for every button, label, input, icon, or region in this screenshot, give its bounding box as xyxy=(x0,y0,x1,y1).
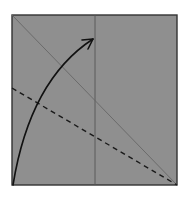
origami-fold-diagram xyxy=(0,0,187,198)
